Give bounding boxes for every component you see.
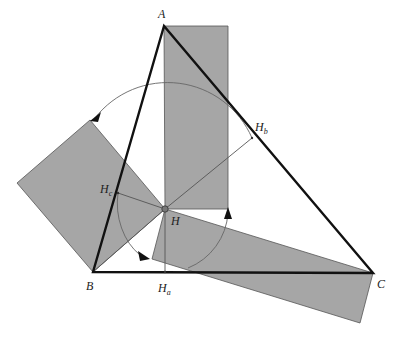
orthocenter-diagram: A B C H Ha Hb Hc: [0, 0, 399, 339]
arrowhead-upper-icon: [90, 112, 101, 122]
label-ha-sub: a: [167, 288, 171, 297]
label-hc-sub: c: [109, 189, 113, 198]
label-h: H: [170, 214, 181, 228]
label-c: C: [377, 277, 386, 291]
foot-hc-dot: [117, 192, 119, 194]
bottom-rectangle: [152, 209, 373, 323]
arrowhead-lower-left-icon: [138, 251, 150, 261]
orthocenter-dot: [162, 206, 168, 212]
label-hb-sub: b: [264, 127, 268, 136]
label-b: B: [86, 279, 94, 293]
label-ha: Ha: [157, 281, 171, 297]
label-hb: Hb: [254, 120, 268, 136]
label-a: A: [157, 7, 166, 21]
foot-hb-dot: [251, 137, 253, 139]
foot-ha-dot: [164, 271, 166, 273]
left-square: [17, 120, 165, 272]
top-rectangle: [164, 26, 228, 209]
